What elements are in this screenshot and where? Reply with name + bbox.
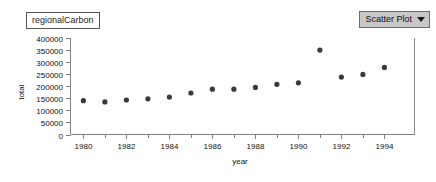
y-tick-label: 400000 bbox=[36, 35, 63, 44]
data-point[interactable] bbox=[253, 85, 258, 90]
y-tick-label: 0 bbox=[59, 132, 64, 141]
data-point[interactable] bbox=[188, 90, 193, 95]
y-tick-label: 50000 bbox=[41, 119, 64, 128]
y-tick-label: 350000 bbox=[36, 47, 63, 56]
chart-canvas: 4000003500003000002500002000001500001000… bbox=[0, 28, 436, 182]
x-axis-title: year bbox=[232, 157, 248, 166]
x-tick-label: 1982 bbox=[118, 142, 136, 151]
y-tick-label: 200000 bbox=[36, 83, 63, 92]
y-tick-label: 100000 bbox=[36, 107, 63, 116]
data-point[interactable] bbox=[81, 98, 86, 103]
data-point[interactable] bbox=[145, 96, 150, 101]
x-tick-label: 1986 bbox=[204, 142, 222, 151]
scatter-plot-panel: regionalCarbon Scatter Plot 400000350000… bbox=[0, 0, 436, 182]
data-point[interactable] bbox=[102, 99, 107, 104]
dataset-name-box[interactable]: regionalCarbon bbox=[26, 12, 100, 29]
x-tick-label: 1984 bbox=[161, 142, 179, 151]
plot-type-dropdown[interactable]: Scatter Plot bbox=[359, 11, 430, 28]
y-tick-label: 250000 bbox=[36, 71, 63, 80]
data-point[interactable] bbox=[317, 47, 322, 52]
data-points bbox=[81, 47, 387, 104]
x-tick-label: 1980 bbox=[75, 142, 93, 151]
plot-type-value: Scatter Plot bbox=[365, 15, 412, 24]
data-point[interactable] bbox=[274, 82, 279, 87]
x-tick-label: 1990 bbox=[290, 142, 308, 151]
data-point[interactable] bbox=[360, 72, 365, 77]
data-point[interactable] bbox=[382, 65, 387, 70]
chevron-down-icon bbox=[417, 17, 425, 22]
x-axis-ticks: 19801982198419861988199019921994 bbox=[75, 135, 394, 152]
data-point[interactable] bbox=[124, 97, 129, 102]
data-point[interactable] bbox=[210, 87, 215, 92]
y-axis-ticks: 4000003500003000002500002000001500001000… bbox=[36, 35, 70, 141]
data-point[interactable] bbox=[296, 80, 301, 85]
data-point[interactable] bbox=[231, 87, 236, 92]
scatter-chart: 4000003500003000002500002000001500001000… bbox=[0, 28, 436, 182]
x-tick-label: 1988 bbox=[247, 142, 265, 151]
dataset-name-label: regionalCarbon bbox=[32, 16, 94, 25]
y-tick-label: 300000 bbox=[36, 59, 63, 68]
y-axis-title: total bbox=[17, 84, 26, 99]
x-tick-label: 1994 bbox=[376, 142, 394, 151]
y-tick-label: 150000 bbox=[36, 95, 63, 104]
x-tick-label: 1992 bbox=[333, 142, 351, 151]
data-point[interactable] bbox=[339, 74, 344, 79]
data-point[interactable] bbox=[167, 95, 172, 100]
